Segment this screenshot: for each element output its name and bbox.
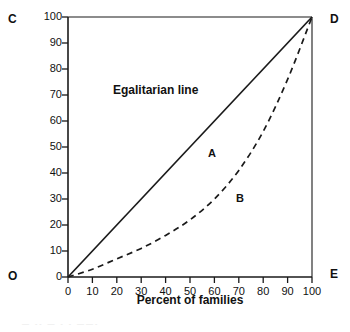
- region-label-a: A: [208, 148, 216, 159]
- corner-label-c: C: [8, 13, 17, 25]
- corner-label-e: E: [330, 268, 338, 280]
- x-tick-labels: 0 10 20 30 40 50 60 70 80 90 100: [0, 0, 350, 332]
- corner-label-o: O: [8, 270, 17, 282]
- x-axis-title: Percent of families: [68, 293, 312, 307]
- region-label-b: B: [236, 193, 244, 204]
- egalitarian-line-label: Egalitarian line: [113, 84, 198, 96]
- scan-bleed-through: — -- — - - ——-: [22, 320, 99, 327]
- corner-label-d: D: [330, 13, 339, 25]
- lorenz-curve-figure: 100 90 80 70 60 50 40 30 20 10 0 0 10 20…: [0, 0, 350, 332]
